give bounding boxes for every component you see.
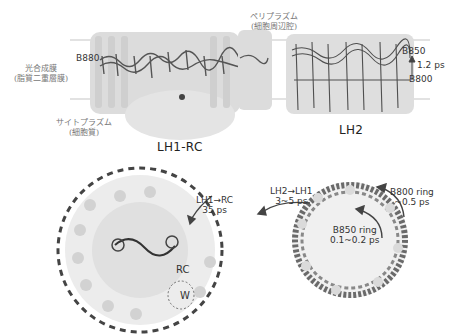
lh1-side-extension	[238, 30, 272, 110]
lh2-title: LH2	[339, 124, 363, 137]
w-label: W	[180, 290, 190, 301]
b800-label: B800	[409, 75, 432, 85]
b800-ring-label: B800 ring ~0.5 ps	[390, 188, 434, 208]
lh1rc-top-view	[58, 168, 222, 332]
membrane-label: 光合成膜 (脂質二重層膜)	[14, 64, 68, 84]
lh1-to-rc-time: 35 ps	[196, 206, 233, 216]
cytoplasm-label: サイトプラズム (細胞質)	[56, 118, 112, 138]
quinone-dot	[179, 94, 185, 100]
b880-label: B880	[76, 54, 99, 64]
b850-ring-time: 0.1~0.2 ps	[330, 236, 379, 246]
lh2-to-lh1-time: 3~5 ps	[270, 197, 313, 207]
lh1rc-side-protein	[90, 32, 240, 140]
lh2-side-protein	[286, 34, 414, 114]
cytoplasm-sub-text: (細胞質)	[56, 128, 112, 138]
periplasm-sub-text: (細胞周辺腔)	[250, 22, 298, 32]
b850-label: B850	[402, 47, 425, 57]
periplasm-label: ペリプラズム (細胞周辺腔)	[250, 12, 298, 32]
rc-label: RC	[176, 264, 189, 275]
b800-ring-time: ~0.5 ps	[390, 198, 434, 208]
lh1-to-rc-label: LH1→RC 35 ps	[196, 196, 233, 216]
cytoplasm-text: サイトプラズム	[56, 118, 112, 128]
lh1rc-title: LH1-RC	[157, 141, 203, 154]
diagram-graphics	[0, 0, 454, 336]
lh2-to-lh1-label: LH2→LH1 3~5 ps	[270, 187, 313, 207]
lh2-transfer-time: 1.2 ps	[417, 61, 445, 71]
b850-ring-label: B850 ring 0.1~0.2 ps	[330, 226, 379, 246]
periplasm-text: ペリプラズム	[250, 12, 298, 22]
membrane-sub-text: (脂質二重層膜)	[14, 74, 68, 84]
membrane-text: 光合成膜	[14, 64, 68, 74]
